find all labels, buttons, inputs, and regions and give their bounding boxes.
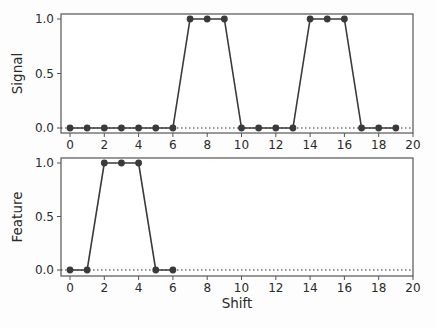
x-tick-label: 10 xyxy=(234,138,249,152)
y-axis-label: Feature xyxy=(9,191,25,242)
y-tick-label: 0.5 xyxy=(35,67,54,81)
data-point xyxy=(187,16,194,23)
x-tick-label: 20 xyxy=(405,138,420,152)
data-point xyxy=(341,16,348,23)
data-point xyxy=(290,125,297,132)
x-tick-label: 0 xyxy=(66,281,74,295)
x-tick-label: 6 xyxy=(169,281,177,295)
data-point xyxy=(221,16,228,23)
x-tick-label: 6 xyxy=(169,138,177,152)
y-tick-label: 0.0 xyxy=(35,263,54,277)
data-point xyxy=(84,267,91,274)
x-tick-label: 12 xyxy=(268,281,283,295)
data-point xyxy=(170,125,177,132)
data-point xyxy=(272,125,279,132)
x-tick-label: 8 xyxy=(203,281,211,295)
x-tick-label: 10 xyxy=(234,281,249,295)
data-point xyxy=(375,125,382,132)
data-point xyxy=(67,125,74,132)
y-tick-label: 0.5 xyxy=(35,210,54,224)
data-point xyxy=(84,125,91,132)
data-point xyxy=(101,125,108,132)
data-point xyxy=(392,125,399,132)
data-point xyxy=(101,160,108,167)
x-tick-label: 0 xyxy=(66,138,74,152)
signal-panel: 024681012141618200.00.51.0Signal xyxy=(9,12,421,152)
data-point xyxy=(238,125,245,132)
feature-panel: 024681012141618200.00.51.0FeatureShift xyxy=(9,156,421,311)
x-tick-label: 4 xyxy=(135,281,143,295)
y-tick-label: 1.0 xyxy=(35,156,54,170)
x-tick-label: 18 xyxy=(371,138,386,152)
data-point xyxy=(170,267,177,274)
data-point xyxy=(307,16,314,23)
data-point xyxy=(152,125,159,132)
x-tick-label: 8 xyxy=(203,138,211,152)
x-tick-label: 16 xyxy=(337,138,352,152)
data-point xyxy=(135,125,142,132)
x-tick-label: 2 xyxy=(100,138,108,152)
x-tick-label: 16 xyxy=(337,281,352,295)
data-point xyxy=(358,125,365,132)
chart-figure: 024681012141618200.00.51.0Signal 0246810… xyxy=(0,0,436,328)
data-point xyxy=(67,267,74,274)
x-tick-label: 14 xyxy=(302,281,317,295)
x-tick-label: 18 xyxy=(371,281,386,295)
x-tick-label: 2 xyxy=(100,281,108,295)
data-point xyxy=(152,267,159,274)
x-tick-label: 20 xyxy=(405,281,420,295)
y-tick-label: 0.0 xyxy=(35,121,54,135)
x-axis-label: Shift xyxy=(222,295,253,311)
data-point xyxy=(255,125,262,132)
data-point xyxy=(118,125,125,132)
data-point xyxy=(204,16,211,23)
y-axis-label: Signal xyxy=(9,53,25,94)
x-tick-label: 12 xyxy=(268,138,283,152)
data-point xyxy=(324,16,331,23)
plot-area xyxy=(61,158,413,276)
y-tick-label: 1.0 xyxy=(35,12,54,26)
data-point xyxy=(118,160,125,167)
x-tick-label: 14 xyxy=(302,138,317,152)
data-point xyxy=(135,160,142,167)
x-tick-label: 4 xyxy=(135,138,143,152)
